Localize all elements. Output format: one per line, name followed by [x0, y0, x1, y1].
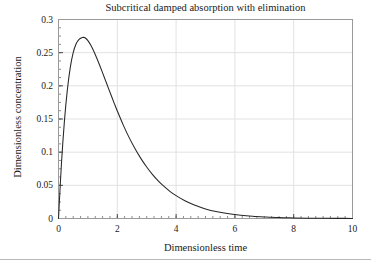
- x-tick-label: 8: [279, 224, 309, 234]
- y-tick-label: 0.05: [20, 180, 53, 190]
- y-tick-label: 0.3: [20, 15, 53, 25]
- x-axis-label: Dimensionless time: [58, 242, 353, 254]
- y-tick-label: 0.2: [20, 81, 53, 91]
- x-tick-label: 6: [220, 224, 250, 234]
- y-tick-label: 0.1: [20, 147, 53, 157]
- page-bottom-rule: [0, 259, 371, 260]
- y-tick-label: 0.25: [20, 48, 53, 58]
- chart-figure: Subcritical damped absorption with elimi…: [0, 0, 371, 264]
- y-tick-label: 0.15: [20, 114, 53, 124]
- x-tick-label: 4: [161, 224, 191, 234]
- x-tick-label: 2: [102, 224, 132, 234]
- y-tick-label: 0: [20, 214, 53, 224]
- y-axis-label: Dimensionless concentration: [12, 37, 24, 197]
- x-tick-label: 10: [338, 224, 368, 234]
- x-tick-label: 0: [44, 224, 74, 234]
